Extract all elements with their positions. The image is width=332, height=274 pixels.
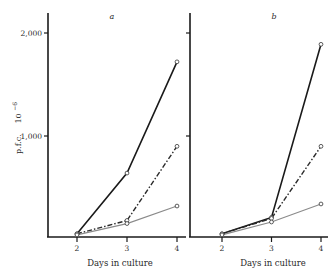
panel-label-b: b <box>271 12 276 21</box>
data-point-thin <box>125 222 129 226</box>
y-tick-label: 1,000 <box>21 132 43 141</box>
panel-label-a: a <box>110 12 115 21</box>
y-tick-label: 2,000 <box>21 29 43 38</box>
data-point-thin <box>75 233 79 237</box>
y-axis-scale: 10 <box>14 113 23 123</box>
data-point-solid <box>125 171 129 175</box>
data-point-thin <box>319 202 323 206</box>
data-point-solid <box>319 42 323 46</box>
x-tick-label: 3 <box>269 244 274 253</box>
y-axis-title: p.f.c. 10 −6 <box>11 102 23 154</box>
x-tick-label: 2 <box>220 244 225 253</box>
x-axis-label-b: Days in culture <box>240 258 306 268</box>
panel-a: a p.f.c. 10 −6 Days in culture 1,0002,00… <box>11 12 186 268</box>
series-line-solid <box>77 62 177 234</box>
svg-text:p.f.c. 10 −6: p.f.c. 10 −6 <box>11 102 23 154</box>
data-point-thin <box>175 204 179 208</box>
x-tick-label: 4 <box>175 244 180 253</box>
data-point-thin <box>270 220 274 224</box>
x-tick-label: 3 <box>125 244 130 253</box>
x-tick-label: 2 <box>75 244 80 253</box>
data-point-dash-dot <box>175 144 179 148</box>
x-tick-label: 4 <box>319 244 324 253</box>
y-axis-exponent: −6 <box>11 102 18 111</box>
x-axis-label-a: Days in culture <box>87 258 153 268</box>
figure: a p.f.c. 10 −6 Days in culture 1,0002,00… <box>0 0 332 274</box>
data-point-dash-dot <box>319 144 323 148</box>
series-line-solid <box>222 44 321 234</box>
panel-b: b Days in culture 234 <box>186 12 328 268</box>
data-point-thin <box>220 233 224 237</box>
data-point-solid <box>175 60 179 64</box>
